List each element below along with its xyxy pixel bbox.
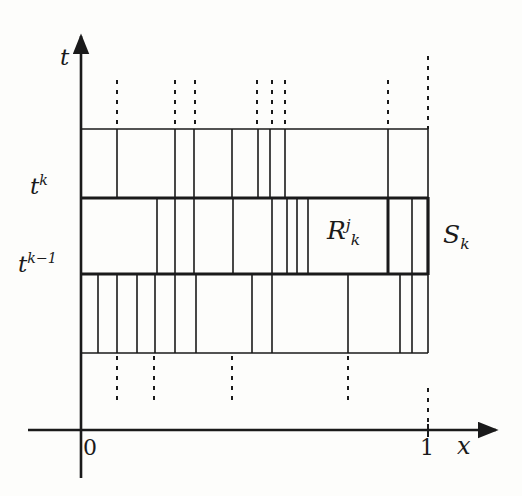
tick-label-t-k-minus-1-sup: k−1: [27, 250, 57, 266]
tick-label-t-k-minus-1: tk−1: [18, 251, 57, 276]
t-axis-label: t: [60, 46, 69, 69]
tick-label-t-k-base: t: [30, 173, 39, 199]
strip-label-Sk: Sk: [443, 222, 470, 253]
upper-band-dividers: [117, 129, 428, 198]
tick-label-t-k: tk: [30, 173, 48, 198]
region-label-sub: k: [351, 231, 360, 249]
x-axis-label: x: [457, 434, 471, 458]
strip-label-sub: k: [460, 235, 469, 253]
band-horizontal-lines: [81, 129, 428, 353]
tick-label-t-k-minus-1-base: t: [18, 251, 27, 277]
region-label-base: R: [327, 216, 346, 245]
tick-label-t-k-sup: k: [39, 172, 48, 188]
region-label-Rkj: Rjk: [327, 218, 360, 249]
dashed-grid-below: [117, 356, 348, 400]
tick-label-unit: 1: [420, 437, 434, 459]
dashed-grid-above: [117, 80, 388, 129]
diagram-canvas: t tk tk−1 Rjk Sk x 0 1: [0, 0, 522, 496]
tick-label-origin: 0: [83, 437, 97, 459]
lower-band-dividers: [98, 274, 428, 353]
strip-Sk-outline: [81, 197, 428, 275]
strip-band-dividers: [157, 198, 412, 274]
strip-label-base: S: [443, 220, 460, 249]
